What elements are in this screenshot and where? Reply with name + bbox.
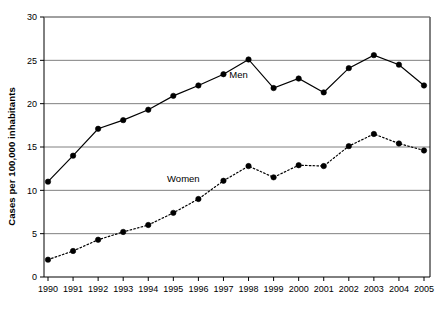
y-tick-label-0: 0: [32, 272, 37, 282]
data-point-women-1994: [146, 222, 151, 227]
y-tick-label-10: 10: [27, 186, 37, 196]
x-tick-label-1998: 1998: [239, 284, 259, 294]
data-point-men-2005: [421, 83, 426, 88]
y-tick-label-15: 15: [27, 142, 37, 152]
series-line-women: [48, 134, 424, 260]
data-point-women-1996: [196, 196, 201, 201]
data-point-men-1995: [171, 93, 176, 98]
y-tick-label-5: 5: [32, 229, 37, 239]
x-tick-label-1992: 1992: [88, 284, 108, 294]
data-point-men-1998: [246, 57, 251, 62]
data-point-women-1995: [171, 210, 176, 215]
data-point-men-2003: [371, 52, 376, 57]
x-tick-label-2002: 2002: [339, 284, 359, 294]
x-tick-label-1997: 1997: [213, 284, 233, 294]
data-point-women-2000: [296, 163, 301, 168]
x-tick-label-2005: 2005: [414, 284, 434, 294]
x-tick-label-1999: 1999: [264, 284, 284, 294]
data-point-women-1993: [121, 229, 126, 234]
data-point-men-1993: [121, 117, 126, 122]
data-point-women-1998: [246, 163, 251, 168]
data-point-women-1991: [70, 248, 75, 253]
x-tick-label-2001: 2001: [314, 284, 334, 294]
data-point-men-2000: [296, 76, 301, 81]
x-tick-label-1996: 1996: [188, 284, 208, 294]
data-point-women-1999: [271, 175, 276, 180]
x-tick-label-2003: 2003: [364, 284, 384, 294]
x-tick-label-2000: 2000: [289, 284, 309, 294]
data-point-men-2001: [321, 90, 326, 95]
data-point-men-1996: [196, 83, 201, 88]
chart-container: Cases per 100,000 inhabitants 0510152025…: [0, 0, 447, 313]
x-tick-label-1995: 1995: [163, 284, 183, 294]
data-point-women-2001: [321, 163, 326, 168]
data-point-women-2002: [346, 143, 351, 148]
data-point-women-2004: [396, 141, 401, 146]
data-point-men-1997: [221, 72, 226, 77]
data-point-men-1999: [271, 85, 276, 90]
data-point-women-1992: [95, 237, 100, 242]
series-label-men: Men: [229, 69, 247, 80]
data-point-men-1991: [70, 153, 75, 158]
x-tick-label-1990: 1990: [38, 284, 58, 294]
data-point-men-1992: [95, 126, 100, 131]
y-tick-label-25: 25: [27, 56, 37, 66]
data-point-women-1997: [221, 178, 226, 183]
x-tick-label-1991: 1991: [63, 284, 83, 294]
data-point-women-2003: [371, 131, 376, 136]
x-tick-label-1993: 1993: [113, 284, 133, 294]
data-point-men-1994: [146, 107, 151, 112]
y-tick-label-20: 20: [27, 99, 37, 109]
y-tick-label-30: 30: [27, 12, 37, 22]
x-tick-label-1994: 1994: [138, 284, 158, 294]
data-point-men-2004: [396, 62, 401, 67]
line-chart-plot: 0510152025301990199119921993199419951996…: [0, 0, 447, 313]
data-point-women-2005: [421, 148, 426, 153]
data-point-men-1990: [45, 179, 50, 184]
data-point-women-1990: [45, 257, 50, 262]
series-label-women: Women: [167, 173, 200, 184]
data-point-men-2002: [346, 65, 351, 70]
x-tick-label-2004: 2004: [389, 284, 409, 294]
